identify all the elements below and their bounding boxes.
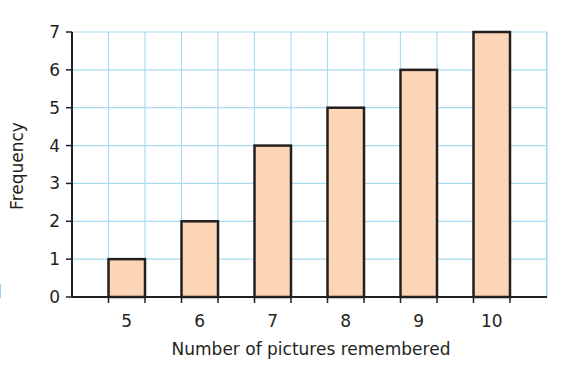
y-tick-label: 4 xyxy=(49,136,60,156)
x-tick-label: 9 xyxy=(413,311,424,331)
y-tick-label: 6 xyxy=(49,60,60,80)
y-tick-labels: 01234567 xyxy=(49,22,60,307)
y-tick-label: 2 xyxy=(49,211,60,231)
x-tick-label: 10 xyxy=(481,311,503,331)
x-tick-label: 8 xyxy=(340,311,351,331)
x-tick-label: 6 xyxy=(194,311,205,331)
y-tick-label: 3 xyxy=(49,173,60,193)
bar-chart: 01234567 5678910 Number of pictures reme… xyxy=(0,0,564,378)
y-tick-label: 7 xyxy=(49,22,60,42)
x-tick-label: 7 xyxy=(267,311,278,331)
y-tick-label: 5 xyxy=(49,98,60,118)
bar-5 xyxy=(109,259,146,297)
bar-8 xyxy=(328,108,365,297)
x-axis-label: Number of pictures remembered xyxy=(172,339,451,359)
bar-6 xyxy=(182,221,219,297)
x-tick-label: 5 xyxy=(121,311,132,331)
bar-7 xyxy=(255,146,292,297)
y-tick-label: 1 xyxy=(49,249,60,269)
y-tick-label: 0 xyxy=(49,287,60,307)
bars xyxy=(109,32,511,297)
x-tick-labels: 5678910 xyxy=(121,311,502,331)
cropped-text-fragment: l xyxy=(0,282,2,302)
y-axis-label: Frequency xyxy=(7,122,27,210)
bar-9 xyxy=(401,70,438,297)
bar-10 xyxy=(474,32,511,297)
